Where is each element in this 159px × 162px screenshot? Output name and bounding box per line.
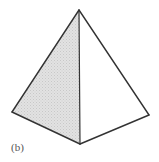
left-face-shaded [12, 10, 80, 144]
pyramid-diagram: (b) [0, 0, 159, 162]
figure-label: (b) [11, 141, 24, 154]
right-face [79, 10, 149, 144]
